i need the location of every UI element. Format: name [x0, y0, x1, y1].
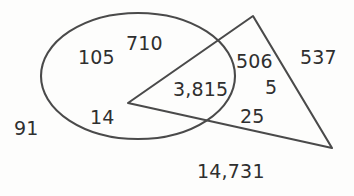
label-triangle-only-upper: 506: [236, 51, 273, 71]
label-ellipse-only-bottom: 14: [90, 107, 115, 127]
label-intersection: 3,815: [173, 79, 228, 99]
label-triangle-only-middle: 5: [265, 77, 277, 97]
label-outside-right: 537: [300, 47, 337, 67]
label-triangle-only-lower: 25: [240, 106, 265, 126]
label-ellipse-only-left: 105: [78, 47, 115, 67]
venn-diagram: 105 710 14 3,815 506 5 25 537 91 14,731: [0, 0, 354, 196]
label-ellipse-only-top: 710: [126, 33, 163, 53]
label-outside-left: 91: [14, 118, 39, 138]
label-outside-bottom: 14,731: [197, 161, 265, 181]
